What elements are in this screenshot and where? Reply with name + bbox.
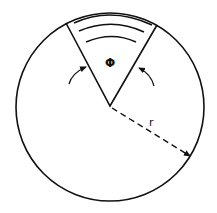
sector-angle-label: Φ: [105, 57, 115, 69]
sector-arc-2: [79, 24, 144, 32]
left-rotation-arrow-icon: [69, 67, 86, 84]
circle-sector-diagram: Φ r: [0, 0, 217, 213]
radius-label: r: [149, 117, 154, 128]
diagram-canvas: [0, 0, 217, 213]
right-rotation-arrow-icon: [139, 68, 154, 86]
sector-arc-3: [86, 37, 136, 43]
